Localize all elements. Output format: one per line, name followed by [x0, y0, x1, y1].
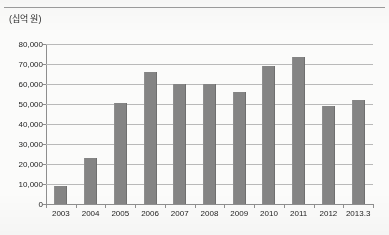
x-axis-ticks: [46, 204, 373, 208]
x-axis-tick-mark: [105, 204, 106, 208]
bar: [84, 158, 97, 204]
cropped-header-text-label: － － － － － － － －: [6, 0, 246, 5]
x-axis-tick-mark: [254, 204, 255, 208]
x-axis-tick-label: 2004: [82, 209, 100, 219]
x-axis-tick-mark: [195, 204, 196, 208]
x-axis-tick-mark: [135, 204, 136, 208]
x-axis-tick-label: 2006: [141, 209, 159, 219]
bar: [203, 84, 216, 204]
x-axis-tick-mark: [284, 204, 285, 208]
bar: [292, 57, 305, 204]
x-axis-tick-mark: [76, 204, 77, 208]
x-axis-tick-mark: [373, 204, 374, 208]
bar-series: [46, 44, 373, 204]
x-axis-tick-mark: [343, 204, 344, 208]
y-axis-tick-label: 30,000: [19, 140, 43, 149]
x-axis-tick-mark: [46, 204, 47, 208]
bar: [144, 72, 157, 204]
x-axis-tick-mark: [314, 204, 315, 208]
y-axis-tick-label: 70,000: [19, 60, 43, 69]
header-divider-rule: [4, 7, 385, 8]
y-axis-tick-labels: 80,00070,00060,00050,00040,00030,00020,0…: [0, 44, 43, 204]
x-axis-tick-label: 2011: [290, 209, 307, 219]
bar: [352, 100, 365, 204]
bar: [54, 186, 67, 204]
y-axis-tick-label: 50,000: [19, 100, 43, 109]
y-axis-tick-label: 80,000: [19, 40, 43, 49]
x-axis-tick-label: 2013.3: [346, 209, 370, 219]
bar: [233, 92, 246, 204]
y-axis-tick-label: 40,000: [19, 120, 43, 129]
x-axis-tick-mark: [224, 204, 225, 208]
x-axis-tick-label: 2005: [111, 209, 129, 219]
chart-page: － － － － － － － － (십억 원) 80,00070,00060,00…: [0, 0, 389, 235]
x-axis-tick-label: 2003: [52, 209, 70, 219]
y-axis-unit-label: (십억 원): [9, 14, 42, 25]
x-axis-tick-label: 2012: [320, 209, 338, 219]
x-axis-tick-label: 2008: [201, 209, 219, 219]
bar: [262, 66, 275, 204]
cropped-header-text: － － － － － － － －: [6, 0, 246, 5]
x-axis-tick-label: 2010: [260, 209, 278, 219]
bar: [322, 106, 335, 204]
x-axis-tick-label: 2009: [230, 209, 248, 219]
bar: [173, 84, 186, 204]
y-axis-tick-label: 10,000: [19, 180, 43, 189]
y-axis-tick-label: 20,000: [19, 160, 43, 169]
bar: [114, 103, 127, 204]
x-axis-tick-labels: 2003200420052006200720082009201020112012…: [46, 209, 373, 223]
plot-area: [46, 44, 373, 204]
x-axis-tick-label: 2007: [171, 209, 189, 219]
y-axis-tick-label: 60,000: [19, 80, 43, 89]
x-axis-tick-mark: [165, 204, 166, 208]
